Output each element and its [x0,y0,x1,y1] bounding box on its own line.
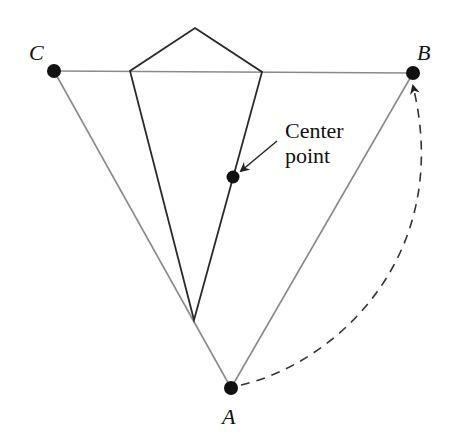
vertex-c-label: C [29,40,44,65]
vertex-b-label: B [417,40,430,65]
center-pointer-arrow [241,141,277,171]
vertex-b-dot [406,66,420,80]
center-point-dot [227,171,240,184]
side-cb [54,71,413,73]
triangle-rotation-diagram: A B C Center point [0,0,458,442]
vertex-a-label: A [220,404,236,429]
vertex-c-dot [47,64,61,78]
center-point-label-line2: point [285,143,330,168]
center-point-label-line1: Center [285,118,344,143]
triangle-abc [54,71,413,388]
vertex-a-dot [224,381,238,395]
